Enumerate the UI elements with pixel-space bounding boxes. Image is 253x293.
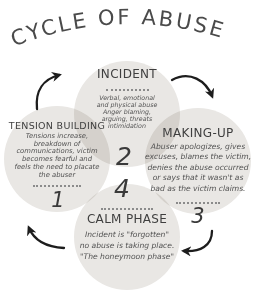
dotted-divider-tension-building: [33, 185, 81, 187]
diagram-title-arc: CYCLE OF ABUSE: [0, 0, 253, 58]
phase-number-incident: 2: [108, 142, 140, 171]
cycle-of-abuse-diagram: CYCLE OF ABUSE INCIDENT Verbal, emotiona…: [0, 0, 253, 293]
page-title: CYCLE OF ABUSE: [7, 5, 228, 51]
arrow-calm-to-tension: [29, 228, 64, 248]
phase-title-tension-building: TENSION BUILDING: [2, 120, 112, 131]
phase-body-making-up: Abuser apologizes, gives excuses, blames…: [140, 142, 253, 194]
phase-title-calm-phase: CALM PHASE: [74, 212, 180, 226]
phase-title-incident: INCIDENT: [74, 67, 180, 81]
phase-body-calm-phase: Incident is "forgotten" no abuse is taki…: [69, 229, 185, 263]
phase-number-making-up: 3: [182, 204, 214, 228]
phase-body-tension-building: Tensions increase, breakdown of communic…: [4, 133, 110, 179]
dotted-divider-incident: [106, 89, 149, 91]
phase-title-making-up: MAKING-UP: [145, 126, 251, 140]
phase-number-tension-building: 1: [42, 188, 74, 212]
arrow-tension-to-incident: [37, 75, 59, 109]
arrow-making-up-to-calm: [184, 231, 212, 251]
phase-number-calm-phase: 4: [106, 174, 138, 203]
dotted-divider-calm-phase: [101, 208, 153, 210]
